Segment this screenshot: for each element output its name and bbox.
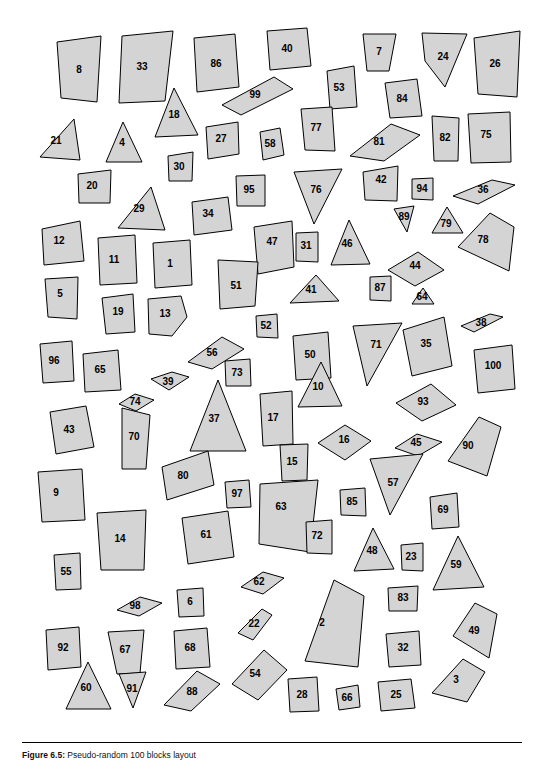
block-label: 87: [374, 282, 386, 293]
block-label: 86: [210, 58, 222, 69]
block-65: 65: [83, 350, 121, 392]
block-label: 60: [80, 682, 92, 693]
block-2: 2: [305, 580, 364, 667]
block-label: 30: [173, 161, 185, 172]
block-90: 90: [448, 417, 501, 476]
block-label: 55: [60, 566, 72, 577]
block-67: 67: [108, 630, 144, 674]
block-58: 58: [260, 128, 284, 160]
block-12: 12: [42, 221, 84, 265]
block-shape: [448, 417, 501, 476]
block-label: 57: [387, 477, 399, 488]
block-label: 68: [184, 642, 196, 653]
block-11: 11: [98, 235, 137, 285]
block-41: 41: [290, 275, 339, 303]
block-98: 98: [117, 597, 162, 616]
block-label: 75: [480, 129, 492, 140]
block-70: 70: [122, 408, 150, 469]
block-55: 55: [54, 553, 81, 590]
block-label: 38: [475, 317, 487, 328]
caption-text: Pseudo-random 100 blocks layout: [67, 750, 196, 760]
block-59: 59: [433, 536, 484, 590]
block-39: 39: [151, 372, 189, 390]
block-82: 82: [432, 116, 459, 161]
block-label: 9: [53, 487, 59, 498]
block-32: 32: [386, 631, 421, 667]
block-69: 69: [430, 493, 459, 529]
block-label: 96: [48, 355, 60, 366]
block-4: 4: [106, 122, 142, 162]
block-label: 10: [312, 381, 324, 392]
block-label: 18: [168, 109, 180, 120]
block-label: 51: [230, 280, 242, 291]
block-label: 46: [341, 238, 353, 249]
block-79: 79: [432, 207, 463, 233]
block-88: 88: [164, 671, 220, 711]
figure-container: 8338640724269953841877818275214275830209…: [0, 0, 543, 771]
block-1: 1: [153, 240, 192, 288]
block-66: 66: [336, 685, 360, 710]
block-33: 33: [119, 31, 173, 103]
block-84: 84: [385, 79, 422, 118]
block-61: 61: [182, 511, 234, 564]
block-label: 3: [453, 674, 459, 685]
block-49: 49: [453, 603, 497, 658]
block-22: 22: [238, 609, 272, 640]
block-label: 37: [208, 413, 220, 424]
block-75: 75: [468, 112, 511, 163]
block-label: 65: [94, 364, 106, 375]
block-label: 63: [275, 501, 287, 512]
block-77: 77: [301, 107, 335, 151]
block-label: 44: [409, 260, 421, 271]
block-label: 61: [200, 529, 212, 540]
block-label: 77: [310, 122, 322, 133]
block-label: 52: [260, 320, 272, 331]
block-29: 29: [118, 187, 165, 230]
block-label: 81: [373, 136, 385, 147]
block-53: 53: [327, 66, 357, 109]
block-81: 81: [350, 124, 420, 161]
block-21: 21: [40, 119, 80, 160]
block-label: 1: [167, 258, 173, 269]
block-label: 58: [264, 138, 276, 149]
block-label: 98: [129, 600, 141, 611]
block-label: 97: [231, 488, 243, 499]
block-label: 23: [405, 551, 417, 562]
block-shape: [38, 469, 85, 522]
block-73: 73: [225, 359, 251, 386]
block-95: 95: [236, 175, 265, 206]
block-label: 72: [311, 530, 323, 541]
block-label: 29: [133, 203, 145, 214]
block-54: 54: [232, 650, 287, 700]
block-43: 43: [50, 406, 94, 454]
block-label: 80: [177, 470, 189, 481]
block-20: 20: [78, 170, 111, 203]
block-48: 48: [354, 528, 394, 571]
block-6: 6: [177, 588, 204, 617]
block-label: 7: [376, 46, 382, 57]
block-label: 13: [159, 308, 171, 319]
block-85: 85: [340, 488, 366, 516]
block-36: 36: [453, 180, 515, 204]
block-68: 68: [174, 628, 210, 669]
figure-caption: Figure 6.5: Pseudo-random 100 blocks lay…: [22, 750, 522, 761]
block-label: 90: [462, 440, 474, 451]
block-86: 86: [194, 34, 239, 92]
block-label: 95: [243, 184, 255, 195]
block-34: 34: [192, 197, 232, 235]
block-19: 19: [102, 294, 135, 334]
block-label: 25: [390, 689, 402, 700]
block-label: 36: [477, 184, 489, 195]
block-45: 45: [395, 434, 442, 456]
block-label: 34: [202, 208, 214, 219]
block-71: 71: [353, 323, 402, 386]
block-label: 43: [63, 424, 75, 435]
blocks-layout-plot: 8338640724269953841877818275214275830209…: [22, 14, 522, 732]
block-label: 53: [333, 82, 345, 93]
block-label: 66: [341, 692, 353, 703]
block-label: 12: [53, 235, 65, 246]
block-label: 6: [187, 596, 193, 607]
block-14: 14: [97, 510, 146, 570]
block-label: 19: [112, 306, 124, 317]
block-shape: [353, 323, 402, 386]
